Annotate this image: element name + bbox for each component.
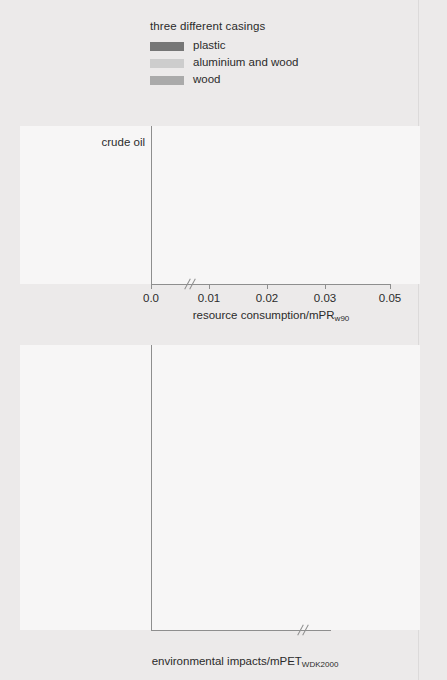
legend-title: three different casings (150, 20, 298, 32)
x-tick (209, 284, 210, 289)
x-axis-title-text-2: environmental impacts/mPET (152, 655, 302, 667)
x-axis-title-2: environmental impacts/mPETWDK2000 (152, 655, 339, 667)
legend-item-aluminium-and-wood: aluminium and wood (150, 56, 298, 70)
chart-legend: three different casings plastic aluminiu… (150, 20, 298, 90)
x-axis-title-sub-1: w90 (335, 314, 350, 323)
x-axis-title-1: resource consumption/mPRw90 (193, 309, 350, 321)
x-tick (151, 284, 152, 289)
legend-label-aluminium-and-wood: aluminium and wood (193, 57, 298, 69)
axis-break-mark-2 (299, 624, 309, 635)
plot-background-1 (20, 126, 420, 284)
legend-label-plastic: plastic (193, 40, 226, 52)
x-tick-label: 0.03 (314, 292, 336, 304)
plot-background-2 (20, 345, 420, 630)
legend-swatch-plastic (150, 42, 184, 51)
x-axis-title-text-1: resource consumption/mPR (193, 309, 335, 321)
y-axis-1 (151, 126, 152, 284)
y-axis-2 (151, 345, 152, 630)
axis-break-mark-1 (186, 278, 196, 289)
x-axis-title-sub-2: WDK2000 (302, 660, 338, 669)
x-tick-label: 0.0 (143, 292, 159, 304)
x-tick (325, 284, 326, 289)
x-tick (267, 284, 268, 289)
category-label: crude oil (5, 137, 145, 149)
legend-item-plastic: plastic (150, 39, 298, 53)
x-tick-label: 0.02 (256, 292, 278, 304)
chart-resource-consumption: crude oil 0.00.010.020.030.05 resource c… (0, 126, 447, 326)
chart-environmental-impacts: environmental impacts/mPETWDK2000 (0, 345, 447, 675)
legend-label-wood: wood (193, 74, 221, 86)
x-tick-label: 0.05 (379, 292, 401, 304)
x-tick-label: 0.01 (198, 292, 220, 304)
x-tick (390, 284, 391, 289)
legend-item-wood: wood (150, 73, 298, 87)
legend-swatch-aluminium-and-wood (150, 59, 184, 68)
legend-swatch-wood (150, 76, 184, 85)
